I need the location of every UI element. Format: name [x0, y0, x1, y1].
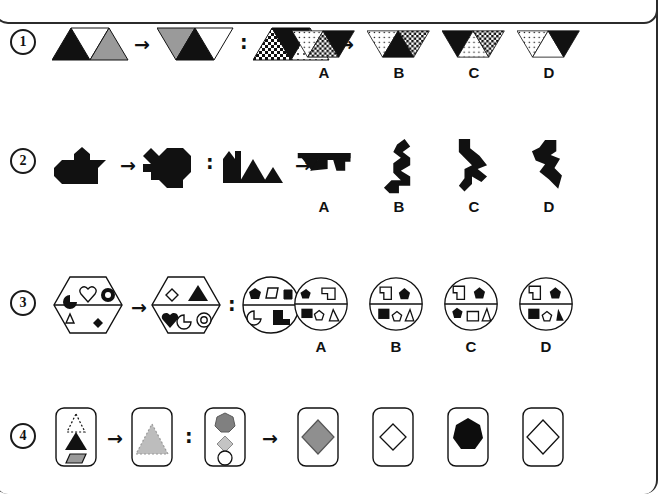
- row-number-1: 1: [10, 29, 36, 55]
- row3-colon: :: [228, 295, 236, 314]
- row4-option-c[interactable]: [446, 406, 490, 468]
- row1-option-b[interactable]: [367, 27, 431, 61]
- row1-term-b: [157, 27, 235, 61]
- row1-option-d[interactable]: [517, 27, 581, 61]
- row2-option-label-a: A: [309, 198, 339, 215]
- row2-option-b[interactable]: [382, 137, 414, 199]
- row1-option-label-b: B: [384, 64, 414, 81]
- row1-option-a[interactable]: [292, 27, 356, 61]
- row1-arrow-1: →: [134, 35, 150, 54]
- row4-term-b: [130, 406, 174, 468]
- row2-option-label-c: C: [459, 198, 489, 215]
- row3-option-label-c: C: [456, 338, 486, 355]
- question-row-1: 1 → :: [0, 0, 648, 120]
- question-row-3: 3 →: [0, 253, 648, 373]
- row3-option-a[interactable]: [292, 275, 350, 333]
- row1-colon: :: [240, 33, 248, 52]
- row3-option-c[interactable]: [442, 275, 500, 333]
- row4-arrow-1: →: [107, 429, 123, 448]
- row3-term-b: [150, 275, 222, 335]
- row1-option-c[interactable]: [442, 27, 506, 61]
- row-number-4: 4: [10, 423, 36, 449]
- row4-term-a: [54, 406, 98, 468]
- row1-option-label-d: D: [534, 64, 564, 81]
- question-row-2: 2 → : →: [0, 120, 648, 240]
- row1-option-label-c: C: [459, 64, 489, 81]
- row4-arrow-2: →: [262, 429, 278, 448]
- row4-colon: :: [185, 427, 193, 446]
- row4-option-b[interactable]: [371, 406, 415, 468]
- row2-option-a[interactable]: [296, 148, 354, 188]
- row2-term-a: [52, 146, 114, 188]
- row3-term-a: [52, 275, 124, 335]
- row4-option-a[interactable]: [296, 406, 340, 468]
- row-number-3: 3: [10, 290, 36, 316]
- row2-arrow-1: →: [120, 156, 136, 175]
- row4-term-c: [203, 406, 247, 468]
- row4-option-d[interactable]: [521, 406, 565, 468]
- row2-term-b: [141, 142, 201, 192]
- row2-option-label-b: B: [384, 198, 414, 215]
- question-row-4: 4 → :: [0, 385, 648, 485]
- row3-arrow-1: →: [131, 298, 147, 317]
- row3-option-label-a: A: [306, 338, 336, 355]
- row3-option-d[interactable]: [517, 275, 575, 333]
- row3-option-b[interactable]: [367, 275, 425, 333]
- row2-term-c: [219, 145, 285, 187]
- row1-option-label-a: A: [309, 64, 339, 81]
- row2-option-d[interactable]: [528, 138, 564, 198]
- row2-option-label-d: D: [534, 198, 564, 215]
- row3-option-label-b: B: [381, 338, 411, 355]
- row2-option-c[interactable]: [455, 137, 489, 199]
- row-number-2: 2: [10, 148, 36, 174]
- row1-term-a: [52, 27, 130, 61]
- row3-option-label-d: D: [531, 338, 561, 355]
- row2-colon: :: [206, 153, 214, 172]
